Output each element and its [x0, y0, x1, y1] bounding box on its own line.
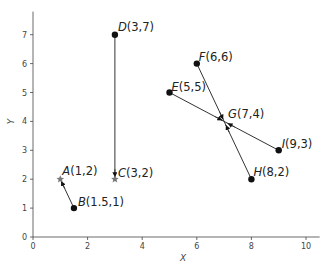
x-tick-label: 2 — [85, 242, 90, 251]
point-marker-dot — [71, 205, 77, 211]
y-tick-label: 6 — [22, 60, 27, 69]
y-tick-label: 2 — [22, 175, 27, 184]
y-tick-label: 5 — [22, 89, 27, 98]
point-label: C(3,2) — [118, 166, 153, 180]
point-F: F(6,6) — [194, 50, 233, 67]
y-tick-label: 4 — [22, 117, 27, 126]
y-tick-label: 0 — [22, 233, 27, 242]
point-G: G(7,4) — [228, 107, 264, 121]
arrowhead-H-G — [226, 125, 229, 132]
point-label: D(3,7) — [118, 20, 154, 34]
point-label: A(1,2) — [61, 164, 97, 178]
points: A(1,2)B(1.5,1)C(3,2)D(3,7)E(5,5)F(6,6)G(… — [57, 20, 313, 212]
x-tick-label: 10 — [301, 242, 311, 251]
point-C: C(3,2) — [111, 166, 153, 182]
point-label: H(8,2) — [253, 165, 289, 179]
chart: 024681001234567XY A(1,2)B(1.5,1)C(3,2)D(… — [0, 0, 335, 276]
point-A: A(1,2) — [57, 164, 98, 182]
point-label: I(9,3) — [282, 137, 313, 151]
arrowhead-B-A — [61, 181, 64, 188]
point-D: D(3,7) — [112, 20, 154, 38]
point-E: E(5,5) — [166, 80, 206, 96]
point-label: E(5,5) — [172, 80, 207, 94]
arrowhead-E-G — [215, 117, 222, 121]
arrowhead-I-G — [228, 123, 235, 127]
point-label: B(1.5,1) — [78, 195, 124, 209]
x-tick-label: 0 — [30, 242, 35, 251]
x-axis-label: X — [179, 253, 187, 263]
axes: 024681001234567XY — [6, 12, 320, 263]
y-tick-label: 7 — [22, 31, 27, 40]
point-I: I(9,3) — [276, 137, 313, 153]
x-tick-label: 6 — [194, 242, 199, 251]
x-tick-label: 4 — [140, 242, 145, 251]
x-tick-label: 8 — [249, 242, 254, 251]
y-tick-label: 1 — [22, 204, 27, 213]
y-tick-label: 3 — [22, 146, 27, 155]
point-B: B(1.5,1) — [71, 195, 124, 211]
point-H: H(8,2) — [248, 165, 289, 182]
point-label: G(7,4) — [228, 107, 264, 121]
point-label: F(6,6) — [199, 50, 233, 64]
y-axis-label: Y — [6, 117, 16, 124]
arrowhead-F-G — [220, 112, 223, 119]
